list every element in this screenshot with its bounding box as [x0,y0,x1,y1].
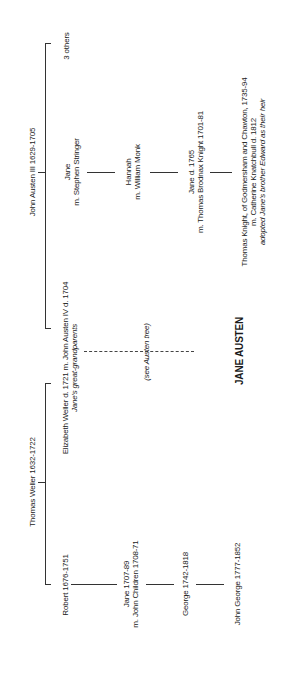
george-label: George 1742-1818 [181,552,190,616]
connector-jane-george [146,584,174,585]
john-george-label: John George 1777-1852 [233,543,242,626]
see-austen-tree-note: (see Austen tree) [142,323,151,381]
thomas-knight-label: Thomas Knight, of Godmersham and Chawton… [240,78,267,267]
dashed-descent-line [84,351,194,352]
bracket-tick-bottom [45,328,51,329]
jane-children-label: Jane 1707-89 m. John Children 1708-71 [122,540,140,627]
jane-stringer-label: Jane m. Stephen Stringer [63,138,81,205]
connector-robert-jane [71,584,117,585]
connector-knight-thomas [210,172,232,173]
austen-sibling-bracket [45,43,46,329]
connector-george-johngeorge [196,584,224,585]
weller-austen-couple-label: Elizabeth Weller d. 1721 m. John Austen … [61,282,79,455]
hannah-monk-label: Hannah m. William Monk [124,144,142,200]
weller-patriarch-connector [38,482,46,483]
john-austen-iii-label: John Austen III 1629-1705 [28,128,37,216]
patriarch-connector [38,172,46,173]
thomas-weller-label: Thomas Weller 1632-1722 [28,437,37,527]
bracket-tick-top [45,383,51,384]
bracket-tick-top [45,43,51,44]
connector-stringer-monk [87,172,115,173]
robert-label: Robert 1676-1751 [61,554,70,615]
jane-knight-label: Jane d. 1765 m. Thomas Brodnax Knight 17… [187,111,205,233]
jane-austen-label: JANE AUSTEN [234,317,245,385]
three-others-label: 3 others [62,32,71,59]
connector-monk-knight [150,172,178,173]
weller-sibling-bracket [45,383,46,585]
bracket-tick-bottom [45,584,51,585]
